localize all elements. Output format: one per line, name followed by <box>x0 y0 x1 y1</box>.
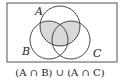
venn-diagram: A B C (A ∩ B) ∪ (A ∩ C) <box>0 0 121 83</box>
label-c: C <box>93 47 102 60</box>
label-a: A <box>34 5 43 18</box>
shaded-region <box>30 21 90 59</box>
caption: (A ∩ B) ∪ (A ∩ C) <box>15 67 104 78</box>
label-b: B <box>21 45 30 58</box>
